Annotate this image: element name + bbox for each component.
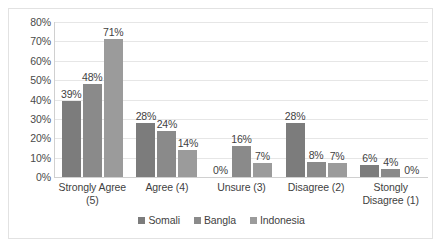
y-axis-tick-10: 10%	[15, 153, 51, 163]
category-label-line: Agree (4)	[130, 181, 205, 194]
bar-slot: 7%	[253, 22, 272, 177]
bar-group: 39%48%71%	[55, 22, 130, 177]
x-axis-baseline	[55, 177, 428, 178]
y-axis-tick-80: 80%	[15, 17, 51, 27]
y-axis-tick-30: 30%	[15, 114, 51, 124]
x-axis-category-labels: Strongly Agree(5)Agree (4)Unsure (3)Disa…	[55, 181, 428, 215]
x-axis-category-label: Disagree (2)	[279, 181, 354, 215]
bar-slot: 0%	[211, 22, 230, 177]
legend-item-bangla[interactable]: Bangla	[194, 215, 236, 226]
y-axis-tick-40: 40%	[15, 95, 51, 105]
bar-slot: 6%	[360, 22, 379, 177]
bar-group-bars: 28%24%14%	[130, 22, 205, 177]
x-axis-category-label: Agree (4)	[130, 181, 205, 215]
bar-slot: 4%	[381, 22, 400, 177]
bar-slot: 28%	[136, 22, 155, 177]
x-axis-category-label: Unsure (3)	[204, 181, 279, 215]
bar[interactable]	[62, 101, 81, 177]
category-label-line: Stongly	[353, 181, 428, 194]
bar-value-label: 8%	[309, 150, 324, 161]
bar-value-label: 71%	[103, 27, 123, 38]
x-axis-category-label: Strongly Agree(5)	[55, 181, 130, 215]
legend-swatch-icon	[138, 217, 145, 224]
x-axis-category-label: StonglyDisagree (1)	[353, 181, 428, 215]
bar-slot: 16%	[232, 22, 251, 177]
bar[interactable]	[232, 146, 251, 177]
y-axis-tick-labels: 80%70%60%50%40%30%20%10%0%	[15, 22, 51, 177]
bar[interactable]	[328, 163, 347, 177]
bar-slot: 28%	[286, 22, 305, 177]
bar[interactable]	[381, 169, 400, 177]
bar-value-label: 4%	[383, 157, 398, 168]
bar-group: 28%8%7%	[279, 22, 354, 177]
bar-group: 6%4%0%	[353, 22, 428, 177]
bar-value-label: 0%	[213, 165, 228, 176]
legend-item-indonesia[interactable]: Indonesia	[250, 215, 305, 226]
bar-group: 0%16%7%	[204, 22, 279, 177]
bar-group-bars: 6%4%0%	[353, 22, 428, 177]
bar-value-label: 28%	[136, 111, 156, 122]
bar-value-label: 0%	[404, 165, 419, 176]
bar-group-bars: 39%48%71%	[55, 22, 130, 177]
bar-slot: 8%	[307, 22, 326, 177]
bar-group-bars: 28%8%7%	[279, 22, 354, 177]
bar[interactable]	[157, 131, 176, 178]
legend-label: Bangla	[204, 215, 236, 226]
y-axis-tick-50: 50%	[15, 75, 51, 85]
category-label-line: (5)	[55, 194, 130, 207]
bar-group-bars: 0%16%7%	[204, 22, 279, 177]
bar-groups: 39%48%71%28%24%14%0%16%7%28%8%7%6%4%0%	[55, 22, 428, 177]
legend-label: Indonesia	[260, 215, 305, 226]
chart-legend: SomaliBanglaIndonesia	[9, 215, 434, 226]
legend-swatch-icon	[250, 217, 257, 224]
plot-area: 39%48%71%28%24%14%0%16%7%28%8%7%6%4%0%	[55, 22, 428, 177]
bar-value-label: 24%	[157, 119, 177, 130]
bar[interactable]	[253, 163, 272, 177]
bar-value-label: 16%	[231, 134, 251, 145]
bar-value-label: 14%	[178, 138, 198, 149]
bar-value-label: 7%	[330, 151, 345, 162]
legend-label: Somali	[148, 215, 180, 226]
bar-slot: 24%	[157, 22, 176, 177]
bar-slot: 71%	[104, 22, 123, 177]
bar[interactable]	[83, 84, 102, 177]
bar[interactable]	[286, 123, 305, 177]
category-label-line: Disagree (1)	[353, 194, 428, 207]
bar[interactable]	[104, 39, 123, 177]
bar-value-label: 39%	[61, 89, 81, 100]
legend-item-somali[interactable]: Somali	[138, 215, 180, 226]
category-label-line: Disagree (2)	[279, 181, 354, 194]
bar[interactable]	[136, 123, 155, 177]
legend-swatch-icon	[194, 217, 201, 224]
bar-group: 28%24%14%	[130, 22, 205, 177]
bar-value-label: 48%	[82, 72, 102, 83]
category-label-line: Strongly Agree	[55, 181, 130, 194]
bar-slot: 0%	[402, 22, 421, 177]
y-axis-tick-70: 70%	[15, 36, 51, 46]
chart-card: 80%70%60%50%40%30%20%10%0% 39%48%71%28%2…	[8, 8, 433, 239]
y-axis-tick-60: 60%	[15, 56, 51, 66]
bar[interactable]	[360, 165, 379, 177]
chart-plot-wrapper: 80%70%60%50%40%30%20%10%0% 39%48%71%28%2…	[9, 9, 434, 240]
bar-value-label: 7%	[255, 151, 270, 162]
bar-value-label: 6%	[362, 153, 377, 164]
bar-slot: 48%	[83, 22, 102, 177]
bar-slot: 7%	[328, 22, 347, 177]
bar-slot: 14%	[178, 22, 197, 177]
category-label-line: Unsure (3)	[204, 181, 279, 194]
bar[interactable]	[307, 162, 326, 178]
bar-value-label: 28%	[285, 111, 305, 122]
bar[interactable]	[178, 150, 197, 177]
y-axis-tick-20: 20%	[15, 133, 51, 143]
y-axis-tick-0: 0%	[15, 172, 51, 182]
bar-slot: 39%	[62, 22, 81, 177]
